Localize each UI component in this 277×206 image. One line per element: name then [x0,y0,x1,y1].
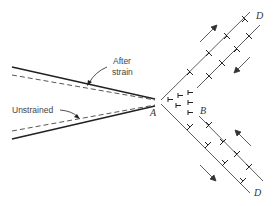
dislocations-lower [187,122,252,184]
after-strain-lines [12,67,155,139]
dislocations-upper [187,16,252,79]
point-a-label: A [149,107,157,118]
dislocation-pileup [168,90,193,115]
point-d-top-label: D [255,10,264,21]
shear-arrows [200,25,251,181]
dislocation-diagram: After strain Unstrained [0,0,277,206]
after-strain-label-2: strain [112,67,133,77]
after-strain-leader [89,67,107,83]
point-d-bottom-label: D [253,187,262,198]
point-b-label: B [200,105,206,116]
unstrained-label: Unstrained [12,105,53,115]
after-strain-label-1: After [113,56,131,66]
